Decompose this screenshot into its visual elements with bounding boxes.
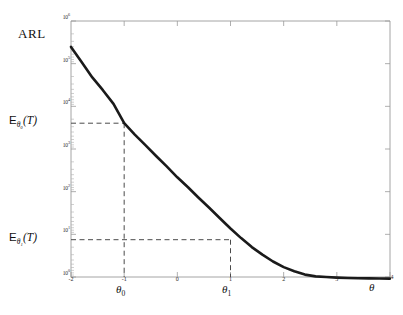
- annotation-e-theta0: Eθ₀(T): [9, 114, 37, 126]
- y-tick-label-1e1: 101: [52, 227, 70, 233]
- x-tick-label-0: 0: [169, 276, 185, 282]
- x-tick-label-1: 1: [223, 276, 239, 282]
- x-tick-label-3: 3: [329, 276, 345, 282]
- chart-canvas: [0, 0, 403, 315]
- e-theta1-subscript: θ₁: [17, 237, 23, 246]
- axes-frame: [71, 21, 390, 277]
- y-tick-label-1e4: 104: [52, 99, 70, 105]
- y-tick-exp-0: 0: [68, 268, 70, 273]
- theta0-subscript: 0: [121, 289, 125, 298]
- e-theta0-operator: E: [9, 114, 17, 126]
- e-theta1-operator: E: [9, 231, 17, 243]
- theta1-subscript: 1: [227, 289, 231, 298]
- y-tick-exp-1: 1: [68, 225, 70, 230]
- theta1-axis-label: θ1: [222, 283, 231, 295]
- e-theta1-argument: (T): [23, 231, 37, 243]
- x-axis-label: θ: [369, 281, 374, 293]
- y-tick-label-1e2: 102: [52, 185, 70, 191]
- x-tick-label-4: 4: [384, 274, 400, 280]
- y-tick-label-1e5: 105: [52, 57, 70, 63]
- y-major-ticks: [71, 21, 390, 277]
- page-title: ARL: [18, 26, 46, 42]
- y-tick-exp-5: 5: [68, 55, 70, 60]
- x-ticks: [71, 21, 390, 277]
- annotation-e-theta1: Eθ₁(T): [9, 231, 37, 243]
- x-tick-label-2: 2: [276, 276, 292, 282]
- y-tick-label-1e3: 103: [52, 142, 70, 148]
- x-tick-label--1: -1: [116, 276, 132, 282]
- y-tick-label-1e6: 106: [52, 14, 70, 20]
- y-tick-exp-3: 3: [68, 140, 70, 145]
- e-theta0-argument: (T): [23, 114, 37, 126]
- y-tick-exp-4: 4: [68, 97, 70, 102]
- y-tick-exp-6: 6: [68, 12, 70, 17]
- theta0-guide: [71, 123, 124, 277]
- e-theta0-subscript: θ₀: [17, 120, 23, 129]
- chart-figure: 106 105 104 103 102 101 100 -2 -1 0 1 2 …: [0, 0, 403, 315]
- x-tick-label--2: -2: [63, 276, 79, 282]
- theta0-axis-label: θ0: [116, 283, 125, 295]
- theta1-guide: [71, 240, 231, 277]
- y-tick-exp-2: 2: [68, 183, 70, 188]
